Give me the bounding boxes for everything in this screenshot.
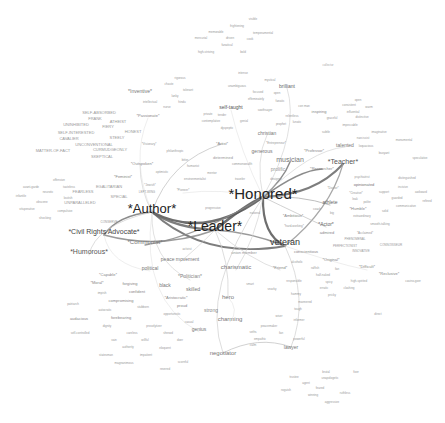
word-node[interactable]: consistent (342, 104, 356, 107)
word-node[interactable]: humanist (187, 165, 199, 168)
word-node[interactable]: infantile (16, 195, 26, 198)
word-node[interactable]: CONNOISSEUR (380, 244, 402, 247)
word-node[interactable]: statesman (99, 354, 113, 357)
word-node[interactable]: soothsayer (258, 109, 273, 112)
word-node[interactable]: fixer (353, 371, 359, 374)
word-node[interactable]: CAVALIER (59, 137, 78, 141)
word-node[interactable]: incisive (398, 186, 408, 189)
word-node[interactable]: obscene (36, 201, 47, 204)
word-node[interactable]: pricky (328, 294, 336, 297)
word-node[interactable]: monumental (396, 139, 413, 142)
word-node[interactable]: SPECIAL (111, 195, 128, 199)
word-node[interactable]: charismatic (221, 264, 251, 270)
word-node[interactable]: union member (231, 251, 257, 255)
word-node[interactable]: designer (270, 178, 282, 181)
word-node[interactable]: UNPARALLELED (64, 201, 95, 205)
word-node[interactable]: loquacious (359, 145, 373, 148)
word-node[interactable]: *Passionate* (137, 114, 160, 118)
word-node[interactable]: coach (313, 208, 321, 211)
word-node[interactable]: FEARLESS (73, 190, 94, 194)
word-node[interactable]: *Inventive* (128, 89, 152, 94)
word-node[interactable]: peace movement (161, 257, 199, 262)
word-node[interactable]: environmentalist (184, 178, 206, 181)
word-node[interactable]: self-taught (219, 105, 242, 110)
word-node[interactable]: rigorous (175, 77, 186, 80)
word-node[interactable]: lawyer (284, 345, 298, 350)
word-node[interactable]: charming (218, 316, 243, 322)
word-node[interactable]: open (355, 99, 362, 102)
hub-node[interactable]: *Honored* (228, 186, 297, 201)
word-node[interactable]: *Doctor* (327, 187, 338, 190)
word-node[interactable]: prolific (271, 167, 285, 172)
word-node[interactable]: skilled (186, 287, 200, 292)
hub-node[interactable]: *Communist* (127, 239, 162, 245)
word-node[interactable]: CURMUDGEONLY (93, 148, 127, 152)
word-node[interactable]: chaste (165, 83, 174, 86)
word-node[interactable]: *Difficult* (359, 265, 375, 269)
word-node[interactable]: magnanimous (115, 362, 134, 365)
word-node[interactable]: traveler (235, 178, 245, 181)
word-node[interactable]: collector (322, 64, 333, 67)
word-node[interactable]: focused (253, 91, 264, 94)
word-node[interactable]: lanky (171, 95, 178, 98)
hub-node[interactable]: *Teacher* (328, 158, 358, 165)
word-node[interactable]: smooth-talking (370, 223, 390, 226)
word-node[interactable]: casino-goer (405, 280, 421, 283)
word-node[interactable]: mannered (298, 301, 312, 304)
word-node[interactable]: brilliant (279, 84, 295, 89)
word-node[interactable]: contemplative (202, 120, 221, 123)
word-node[interactable]: compulsive (57, 210, 72, 213)
word-node[interactable]: awkward (415, 191, 427, 194)
word-node[interactable]: intellectual (143, 101, 157, 104)
word-node[interactable]: subtle (322, 131, 330, 134)
word-node[interactable]: negotiator (210, 350, 237, 356)
word-node[interactable]: talented (336, 143, 354, 148)
word-node[interactable]: dyspeptic (221, 127, 234, 130)
word-node[interactable]: *Aristocratic* (165, 296, 188, 300)
hub-node[interactable]: veteran (270, 238, 300, 247)
word-node[interactable]: compromising (109, 299, 134, 303)
word-node[interactable]: responsible (286, 280, 301, 283)
word-node[interactable]: private (203, 113, 212, 116)
hub-node[interactable]: musician (276, 156, 304, 163)
word-node[interactable]: political (142, 266, 159, 271)
word-node[interactable]: forebearing (111, 316, 131, 320)
word-node[interactable]: progressive (205, 207, 221, 210)
word-node[interactable]: UNINHIBITED (63, 123, 89, 127)
word-node[interactable]: PHENOMENAL (344, 238, 365, 241)
word-node[interactable]: *Jewish* (144, 184, 156, 187)
word-node[interactable]: strong (204, 308, 218, 313)
word-node[interactable]: christian (258, 131, 277, 136)
word-node[interactable]: ruthless (340, 392, 351, 395)
word-node[interactable]: leak (352, 198, 358, 201)
word-node[interactable]: shrewd (163, 332, 173, 335)
word-node[interactable]: forgiving (122, 282, 137, 286)
word-node[interactable]: PERFECTIONIST (333, 245, 357, 248)
word-node[interactable]: offensive (53, 179, 65, 182)
word-node[interactable]: HONEST (125, 130, 142, 134)
word-node[interactable]: impish (98, 292, 107, 295)
word-node[interactable]: genial (240, 120, 248, 123)
word-node[interactable]: polite (363, 201, 370, 204)
word-node[interactable]: unapologetic (321, 377, 338, 380)
word-node[interactable]: intense (238, 72, 248, 75)
word-node[interactable]: buoyant (379, 152, 390, 155)
word-node[interactable]: black (159, 283, 171, 288)
word-node[interactable]: *Capable* (99, 273, 117, 277)
word-node[interactable]: clashing (343, 287, 354, 290)
word-node[interactable]: big (330, 212, 334, 215)
word-node[interactable]: roguish (281, 389, 291, 392)
word-node[interactable]: genius (192, 327, 207, 332)
word-node[interactable]: nurse (163, 106, 171, 109)
word-node[interactable]: tough (294, 308, 302, 311)
word-node[interactable]: avant-garde (23, 186, 39, 189)
word-node[interactable]: support (379, 191, 389, 194)
word-node[interactable]: LEFT-WING (139, 191, 155, 194)
word-node[interactable]: seths (249, 331, 256, 334)
word-node[interactable]: INNOVATIVE (352, 250, 370, 253)
word-node[interactable]: empathic (254, 338, 266, 341)
word-node[interactable]: *Ambitious* (283, 214, 304, 218)
word-node[interactable]: solid (382, 210, 388, 213)
word-node[interactable]: opportunistic (163, 313, 180, 316)
word-node[interactable]: *Friend* (273, 266, 287, 270)
